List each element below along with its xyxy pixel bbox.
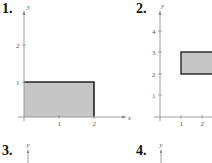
graph-1: y x 2 1 1 2 <box>16 3 132 128</box>
y-tick-label: 2 <box>152 71 156 79</box>
y-axis-arrow-icon <box>23 10 26 15</box>
y-axis-label: y <box>26 3 31 11</box>
x-tick-label: 1 <box>180 120 184 128</box>
y-tick-label: 1 <box>16 79 20 87</box>
y-axis-arrow-icon <box>159 10 162 15</box>
y-tick-label: 3 <box>152 49 156 57</box>
x-tick-label: 2 <box>201 120 205 128</box>
graph-3: y <box>26 141 31 163</box>
graph-4: y <box>159 141 164 163</box>
y-tick-label: 1 <box>152 92 156 100</box>
shaded-rectangle-2 <box>181 52 212 74</box>
x-axis-arrow-icon <box>122 116 127 119</box>
y-axis-arrow-icon <box>160 149 162 153</box>
y-axis-label: y <box>26 141 31 149</box>
y-axis-label: y <box>160 2 165 10</box>
y-axis-arrow-icon <box>27 149 29 153</box>
graph-2: y 4 3 2 1 1 2 <box>152 2 212 128</box>
x-tick-label: 2 <box>93 120 97 128</box>
shaded-rectangle-1 <box>24 82 94 117</box>
y-tick-label: 4 <box>152 28 156 36</box>
y-tick-label: 2 <box>16 42 20 50</box>
figure-canvas: y x 2 1 1 2 y 4 3 2 1 1 2 y y <box>0 0 212 163</box>
x-tick-label: 1 <box>58 120 62 128</box>
y-axis-label: y <box>159 141 164 149</box>
x-axis-label: x <box>127 114 132 122</box>
